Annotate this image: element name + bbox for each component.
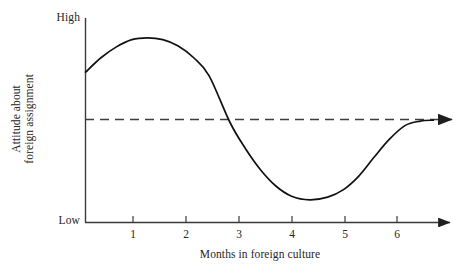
- x-tick-label-6: 6: [389, 228, 405, 240]
- y-axis-title-line-1: Attitude about: [10, 59, 23, 179]
- culture-shock-chart: High Low Attitude about foreign assignme…: [0, 0, 473, 270]
- y-axis-title-line-2: foreign assignment: [23, 59, 36, 179]
- x-tick-label-5: 5: [337, 228, 353, 240]
- y-axis-title: Attitude about foreign assignment: [10, 59, 36, 179]
- y-axis-high-label: High: [42, 11, 80, 24]
- x-tick-label-2: 2: [178, 228, 194, 240]
- y-axis-low-label: Low: [42, 214, 80, 227]
- x-axis-title: Months in foreign culture: [160, 248, 360, 261]
- x-tick-label-3: 3: [231, 228, 247, 240]
- x-tick-label-4: 4: [284, 228, 300, 240]
- x-axis-ticks: [133, 216, 397, 223]
- x-tick-label-1: 1: [125, 228, 141, 240]
